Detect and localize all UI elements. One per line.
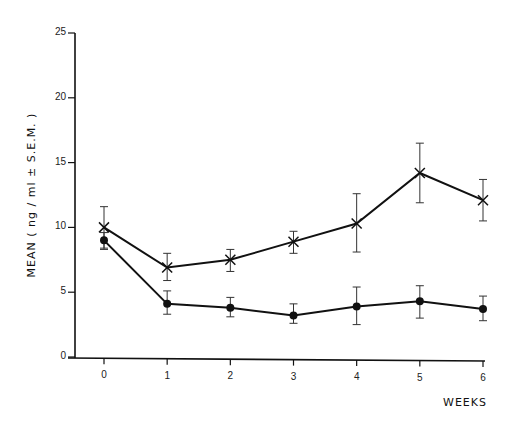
x-tick-label: 3 (291, 371, 297, 382)
x-axis: 0123456 (68, 358, 486, 383)
y-tick-label: 5 (60, 285, 66, 296)
x-tick-label: 0 (101, 369, 107, 380)
x-tick-label: 6 (480, 372, 486, 383)
line-chart: 0510152025 0123456 MEAN ( ng / ml ± S.E.… (0, 0, 516, 431)
circle-marker-icon (416, 297, 424, 305)
x-tick-label: 2 (228, 370, 234, 381)
x-tick-label: 4 (354, 371, 360, 382)
x-tick-label: 1 (164, 370, 170, 381)
plot-area (99, 143, 488, 324)
circle-marker-icon (479, 305, 487, 313)
circle-marker-icon (353, 302, 361, 310)
y-tick-label: 20 (55, 91, 67, 102)
y-tick-label: 10 (55, 220, 67, 231)
y-tick-label: 15 (55, 156, 67, 167)
y-tick-label: 25 (55, 26, 67, 37)
y-tick-label: 0 (60, 350, 66, 361)
circle-marker-icon (226, 304, 234, 312)
y-axis: 0510152025 (55, 26, 75, 361)
series-x-marker (99, 143, 488, 280)
circle-marker-icon (163, 300, 171, 308)
x-tick-label: 5 (417, 372, 423, 383)
y-axis-title: MEAN ( ng / ml ± S.E.M. ) (25, 113, 38, 278)
circle-marker-icon (100, 236, 108, 244)
circle-marker-icon (290, 312, 298, 320)
x-axis-title: WEEKS (443, 396, 487, 409)
